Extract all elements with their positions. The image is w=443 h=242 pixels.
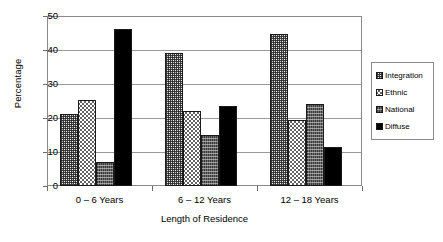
legend-item-ethnic[interactable]: Ethnic [376,85,430,100]
bar-integration-12-18-years [270,34,288,186]
x-category-label-0-6-years: 0 – 6 Years [47,194,152,205]
x-axis-title: Length of Residence [47,213,362,224]
legend-label-diffuse: Diffuse [385,123,410,131]
x-category-label-12-18-years: 12 – 18 Years [257,194,362,205]
legend-item-diffuse[interactable]: Diffuse [376,119,430,134]
bar-diffuse-0-6-years [114,29,132,186]
legend-item-integration[interactable]: Integration [376,68,430,83]
legend-swatch-diffuse-icon [376,123,383,130]
bar-ethnic-0-6-years [78,100,96,186]
x-tick-mark-3 [362,186,363,191]
legend-item-national[interactable]: National [376,102,430,117]
bar-group-0-6-years [47,16,152,186]
chart-legend: IntegrationEthnicNationalDiffuse [371,62,434,140]
bar-group-6-12-years [152,16,257,186]
legend-swatch-integration-icon [376,72,383,79]
y-axis-title: Percentage [12,34,23,134]
bar-diffuse-12-18-years [324,147,342,186]
x-tick-mark-1 [152,186,153,191]
legend-label-integration: Integration [385,72,423,80]
bar-integration-6-12-years [165,53,183,186]
bar-ethnic-12-18-years [288,120,306,186]
bar-group-12-18-years [257,16,362,186]
legend-swatch-ethnic-icon [376,89,383,96]
bar-ethnic-6-12-years [183,111,201,186]
legend-label-national: National [385,106,414,114]
bar-national-6-12-years [201,135,219,186]
bar-chart: Percentage 01020304050 0 – 6 Years6 – 12… [0,0,443,242]
bars-layer [47,16,362,186]
x-tick-mark-2 [257,186,258,191]
x-tick-mark-0 [47,186,48,191]
bar-national-12-18-years [306,104,324,186]
bar-diffuse-6-12-years [219,106,237,186]
bar-integration-0-6-years [60,114,78,186]
x-category-label-6-12-years: 6 – 12 Years [152,194,257,205]
legend-label-ethnic: Ethnic [385,89,407,97]
legend-swatch-national-icon [376,106,383,113]
bar-national-0-6-years [96,162,114,186]
